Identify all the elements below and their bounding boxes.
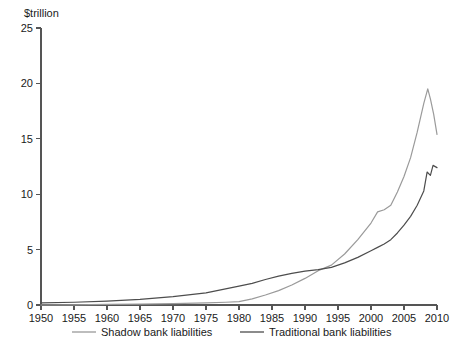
series-line [41,165,437,302]
x-axis-tick-label: 1980 [227,312,251,324]
legend-item-label: Shadow bank liabilities [101,326,213,338]
x-axis-tick-label: 1990 [293,312,317,324]
axes [36,28,437,310]
line-chart: 1950195519601965197019751980198519901995… [0,0,458,350]
x-axis-tick-label: 1970 [161,312,185,324]
x-axis-tick-labels: 1950195519601965197019751980198519901995… [29,312,449,324]
x-axis-tick-label: 1960 [95,312,119,324]
x-axis-tick-label: 1995 [326,312,350,324]
legend-item-label: Traditional bank liabilities [269,326,392,338]
y-axis-tick-label: 0 [27,299,33,311]
y-axis-tick-labels: 0510152025 [21,22,33,311]
chart-container: 1950195519601965197019751980198519901995… [0,0,458,350]
x-axis-tick-label: 1950 [29,312,53,324]
x-axis-tick-label: 2000 [359,312,383,324]
y-axis-tick-label: 20 [21,77,33,89]
x-axis-tick-label: 2010 [425,312,449,324]
x-axis-tick-label: 1975 [194,312,218,324]
y-axis-tick-label: 10 [21,188,33,200]
series-lines [41,89,437,305]
y-axis-tick-label: 25 [21,22,33,34]
x-axis-tick-label: 2005 [392,312,416,324]
x-axis-tick-label: 1985 [260,312,284,324]
x-axis-tick-label: 1955 [62,312,86,324]
y-axis-tick-label: 15 [21,133,33,145]
y-axis-tick-label: 5 [27,244,33,256]
chart-legend: Shadow bank liabilitiesTraditional bank … [72,326,392,338]
series-line [41,89,437,305]
y-axis-unit-label: $trillion [24,7,59,19]
x-axis-tick-label: 1965 [128,312,152,324]
